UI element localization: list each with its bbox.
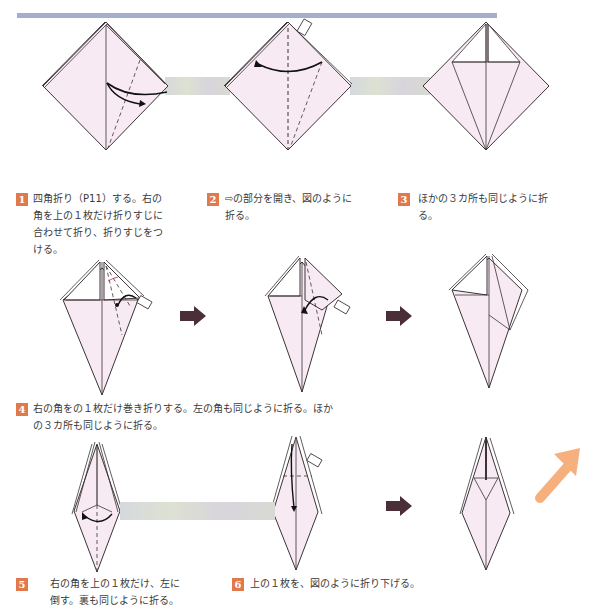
step-2-text: ⇨の部分を開き、図のように 折る。 (225, 190, 352, 224)
step-number-badge: 1 (16, 193, 28, 206)
diagram-step-1 (0, 0, 596, 612)
step-3-text: ほかの３カ所も同じように折 る。 (418, 190, 548, 224)
step-number-badge: 6 (232, 578, 244, 591)
up-right-arrow-icon (532, 446, 592, 506)
step-connector-band (120, 502, 275, 520)
right-arrow-icon (180, 306, 206, 326)
step-number-badge: 3 (398, 193, 410, 206)
step-number-badge: 4 (16, 403, 28, 416)
step-number-badge: 2 (207, 193, 219, 206)
step-4-text: 右の角をの１枚だけ巻き折りする。左の角も同じように折る。ほか の３カ所も同じよう… (33, 400, 333, 434)
step-5-text: 右の角を上の１枚だけ、左に 倒す。裏も同じように折る。 (50, 575, 180, 609)
step-number-badge: 5 (16, 578, 28, 591)
right-arrow-icon (386, 496, 412, 516)
step-6-text: 上の１枚を、図のように折り下げる。 (250, 575, 420, 592)
step-1-text: 四角折り（P11）する。右の 角を上の１枚だけ折りすじに 合わせて折り、折りすじ… (33, 190, 163, 258)
right-arrow-icon (386, 306, 412, 326)
